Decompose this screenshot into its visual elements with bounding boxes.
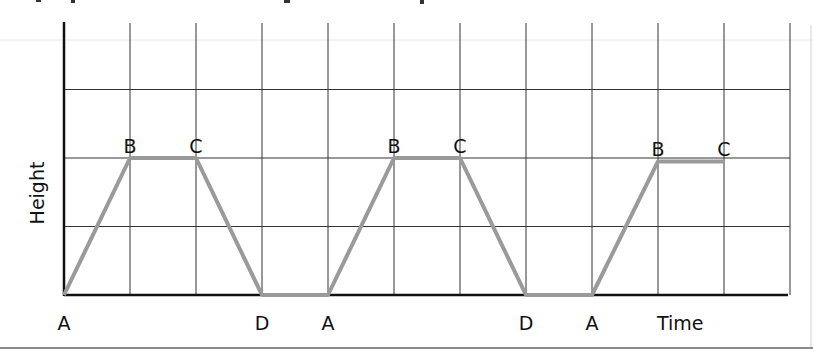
point-label-a: A [586, 312, 599, 334]
point-label-c: C [189, 135, 202, 157]
point-label-c: C [717, 138, 730, 160]
point-label-a: A [58, 312, 71, 334]
chart: ABCDABCDABC Height Time [0, 0, 813, 351]
point-label-d: D [519, 312, 534, 334]
x-axis-label: Time [656, 312, 704, 334]
y-axis-label: Height [26, 162, 48, 225]
cropped-title-fragments [36, 0, 424, 4]
point-label-b: B [387, 135, 400, 157]
point-label-a: A [322, 312, 335, 334]
point-label-d: D [255, 312, 270, 334]
point-label-b: B [123, 135, 136, 157]
point-label-b: B [651, 138, 664, 160]
point-label-c: C [453, 135, 466, 157]
